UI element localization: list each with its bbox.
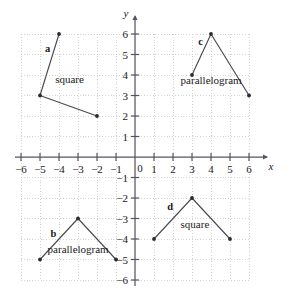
shape-name-d: square (181, 218, 210, 230)
y-tick-label-neg5: −5 (116, 254, 128, 266)
x-tick-label-neg2: −2 (91, 163, 103, 175)
x-tick-label-3: 3 (189, 163, 195, 175)
y-tick-label-5: 5 (123, 49, 129, 61)
y-tick-label-neg1: −1 (116, 172, 128, 184)
shape-letter-a: a (45, 43, 51, 54)
vertex-point (190, 196, 194, 200)
origin-label: 0 (137, 162, 143, 174)
y-tick-label-6: 6 (123, 28, 129, 40)
x-tick-label-6: 6 (246, 163, 252, 175)
x-tick-label-neg6: −6 (15, 163, 27, 175)
shape-name-c: parallelogram (181, 74, 243, 86)
vertex-point (152, 237, 156, 241)
vertex-point (247, 94, 251, 98)
y-tick-label-neg4: −4 (116, 233, 128, 245)
vertex-point (209, 32, 213, 36)
vertex-point (228, 237, 232, 241)
shape-name-b: parallelogram (48, 243, 110, 255)
vertex-point (114, 258, 118, 262)
x-tick-label-neg4: −4 (53, 163, 65, 175)
y-tick-label-4: 4 (123, 69, 129, 81)
shape-letter-c: c (198, 36, 203, 47)
vertex-point (95, 114, 99, 118)
figure-background (0, 0, 289, 299)
x-tick-label-4: 4 (208, 163, 214, 175)
x-tick-label-2: 2 (170, 163, 176, 175)
x-axis-label: x (268, 160, 274, 172)
vertex-point (38, 258, 42, 262)
y-axis-label: y (123, 7, 129, 19)
x-tick-label-neg5: −5 (34, 163, 46, 175)
shape-name-a: square (55, 73, 84, 85)
vertex-point (38, 94, 42, 98)
coordinate-plane-figure: −6−5−4−3−2−1123456−6−5−4−3−2−11234560 xy… (0, 0, 289, 299)
x-tick-label-neg3: −3 (72, 163, 84, 175)
vertex-point (76, 217, 80, 221)
y-tick-label-neg3: −3 (116, 213, 128, 225)
x-tick-label-1: 1 (151, 163, 157, 175)
shape-letter-d: d (167, 201, 173, 212)
y-tick-label-2: 2 (123, 110, 129, 122)
y-tick-label-neg2: −2 (116, 192, 128, 204)
shape-letter-b: b (50, 228, 56, 239)
y-tick-label-1: 1 (123, 131, 129, 143)
y-tick-label-3: 3 (123, 90, 129, 102)
vertex-point (57, 32, 61, 36)
y-tick-label-neg6: −6 (116, 274, 128, 286)
x-tick-label-5: 5 (227, 163, 233, 175)
